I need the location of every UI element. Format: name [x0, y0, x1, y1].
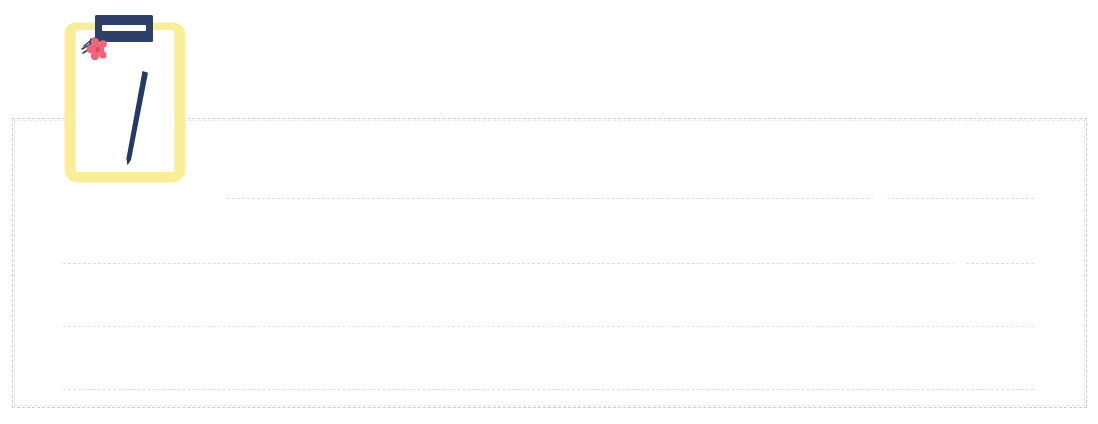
rule-line-2 — [63, 263, 1034, 264]
rule-line-1-gap — [873, 197, 887, 200]
rule-line-3 — [63, 326, 1034, 327]
clipboard-illustration: Clipboard with blank paper, pencil and a… — [58, 8, 198, 188]
rule-line-1 — [227, 198, 1034, 199]
screen-root: Clipboard with blank paper, pencil and a… — [0, 0, 1098, 424]
clipboard-clip-icon — [95, 15, 153, 42]
rule-line-2-gap — [953, 262, 965, 265]
rule-line-4 — [63, 389, 1034, 390]
